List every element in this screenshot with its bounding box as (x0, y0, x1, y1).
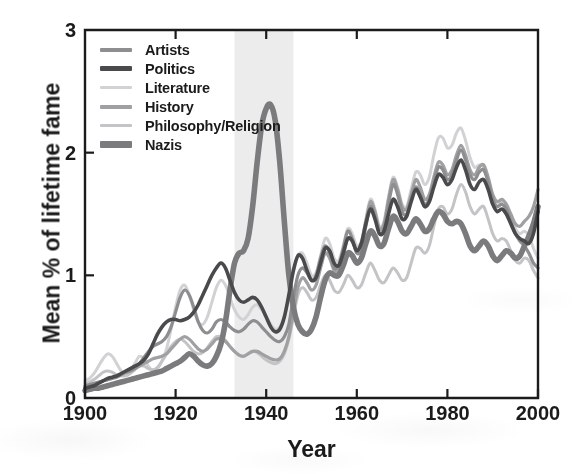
legend-item-label: Philosophy/Religion (145, 118, 281, 134)
legend-item-artists: Artists (100, 40, 310, 59)
legend-swatch-icon (100, 141, 132, 148)
legend-item-literature: Literature (100, 78, 310, 97)
legend-item-philosophy-religion: Philosophy/Religion (100, 116, 310, 135)
chart-legend: ArtistsPoliticsLiteratureHistoryPhilosop… (100, 40, 310, 154)
series-line-philosophy-religion (85, 185, 538, 384)
legend-swatch-icon (100, 86, 132, 89)
legend-swatch-icon (100, 48, 132, 52)
legend-item-label: Literature (145, 80, 210, 96)
legend-swatch-icon (100, 105, 132, 109)
legend-item-nazis: Nazis (100, 135, 310, 154)
legend-item-label: History (145, 99, 194, 115)
legend-item-label: Politics (145, 61, 195, 77)
legend-item-label: Artists (145, 42, 190, 58)
legend-item-politics: Politics (100, 59, 310, 78)
legend-swatch-icon (100, 66, 132, 71)
legend-swatch-icon (100, 124, 132, 127)
legend-item-history: History (100, 97, 310, 116)
legend-item-label: Nazis (145, 137, 182, 153)
fame-line-chart-figure: Mean % of lifetime fame Year 19001920194… (0, 0, 578, 474)
